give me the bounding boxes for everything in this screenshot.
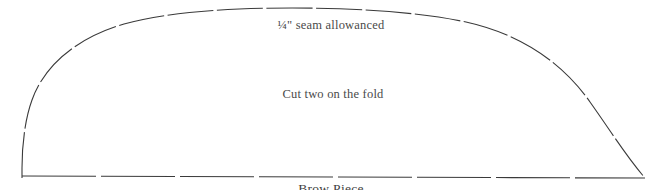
seam-allowance-label: ¼" seam allowanced bbox=[278, 18, 385, 33]
pattern-sheet: ¼" seam allowanced Cut two on the fold B… bbox=[0, 0, 661, 190]
cut-instruction-label: Cut two on the fold bbox=[282, 87, 383, 102]
piece-name-label: Brow Piece bbox=[298, 181, 364, 190]
fold-baseline-path bbox=[22, 176, 645, 178]
